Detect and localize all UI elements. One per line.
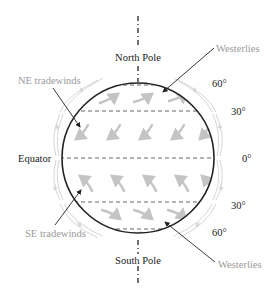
se-tradewinds-leader	[55, 190, 81, 225]
se-tradewind-arrow	[80, 176, 92, 191]
north-pole-label: North Pole	[115, 52, 161, 63]
ne-tradewind-arrow	[172, 125, 184, 139]
ne-tradewind-arrow	[76, 125, 88, 139]
se-tradewind-arrow	[176, 176, 188, 191]
westerly-arrow	[134, 94, 152, 102]
lat-60s-label: 60°	[212, 227, 227, 238]
se-tradewind-arrow	[144, 176, 156, 191]
lat-0-label: 0°	[242, 153, 251, 164]
westerlies-south-leader	[165, 222, 215, 262]
lat-60n-label: 60°	[212, 78, 227, 89]
ne-tradewind-arrow	[200, 125, 210, 139]
ne-tradewinds-label: NE tradewinds	[18, 75, 81, 86]
equator-label: Equator	[18, 153, 52, 164]
polar-easterly-arrow	[141, 78, 147, 81]
westerly-arrow	[100, 94, 118, 103]
se-tradewinds-label: SE tradewinds	[25, 228, 86, 239]
lat-30s-label: 30°	[231, 200, 246, 211]
wind-belts-diagram: North Pole South Pole Equator NE tradewi…	[0, 0, 275, 296]
westerlies-north-label: Westerlies	[216, 43, 259, 54]
westerly-arrow	[134, 210, 152, 219]
wind-arrows	[76, 78, 212, 236]
south-pole-label: South Pole	[115, 255, 161, 266]
westerlies-south-label: Westerlies	[218, 259, 261, 270]
lat-30n-label: 30°	[231, 106, 246, 117]
ne-tradewind-arrow	[108, 125, 120, 139]
westerly-arrow	[102, 210, 120, 219]
se-tradewind-arrow	[112, 176, 124, 191]
ne-tradewind-arrow	[140, 125, 152, 139]
